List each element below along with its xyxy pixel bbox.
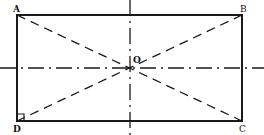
rectangle-diagram: A B C D O	[0, 0, 264, 135]
label-o: O	[133, 55, 141, 65]
label-b: B	[240, 4, 247, 14]
label-d: D	[13, 124, 21, 134]
label-c: C	[239, 124, 246, 134]
label-a: A	[12, 4, 21, 14]
